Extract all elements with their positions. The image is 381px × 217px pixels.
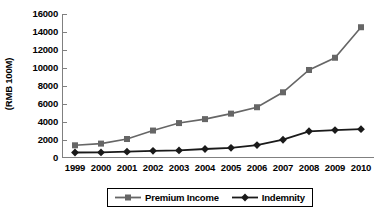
y-axis-tick-labels: 1600014000120001000080006000400020000 (14, 0, 58, 217)
data-point-marker (357, 125, 365, 133)
x-axis-tick-labels: 1999200020012002200320042005200620072008… (62, 162, 374, 176)
data-point-marker (149, 147, 157, 155)
line-chart: (RMB 100M) 16000140001200010000800060004… (0, 0, 381, 217)
data-point-marker (124, 136, 130, 142)
y-axis-tick-label: 14000 (14, 27, 58, 37)
y-axis-tick-label: 4000 (14, 117, 58, 127)
data-point-marker (123, 148, 131, 156)
legend-label: Indemnity (262, 192, 305, 203)
axis-lines (62, 14, 374, 158)
data-series-layer (71, 24, 365, 156)
y-axis-tick-label: 8000 (14, 81, 58, 91)
data-point-marker (175, 147, 183, 155)
data-point-marker (97, 149, 105, 157)
square-marker-icon (115, 192, 141, 203)
data-point-marker (254, 104, 260, 110)
series-line (75, 27, 361, 145)
y-axis-tick-label: 10000 (14, 63, 58, 73)
chart-legend: Premium IncomeIndemnity (107, 188, 313, 207)
data-point-marker (305, 127, 313, 135)
data-point-marker (71, 149, 79, 157)
data-point-marker (201, 145, 209, 153)
y-axis-tick-label: 6000 (14, 99, 58, 109)
data-point-marker (332, 55, 338, 61)
data-point-marker (176, 120, 182, 126)
data-point-marker (228, 111, 234, 117)
data-point-marker (227, 144, 235, 152)
legend-item: Indemnity (232, 192, 305, 203)
data-point-marker (279, 136, 287, 144)
data-point-marker (358, 24, 364, 30)
data-point-marker (306, 67, 312, 73)
legend-item: Premium Income (115, 192, 219, 203)
plot-svg (62, 14, 374, 158)
data-point-marker (280, 89, 286, 95)
data-point-marker (331, 126, 339, 134)
data-point-marker (202, 116, 208, 122)
y-axis-tick-label: 16000 (14, 9, 58, 19)
diamond-marker-icon (232, 192, 258, 203)
y-axis-tick-label: 12000 (14, 45, 58, 55)
y-axis-tick-label: 2000 (14, 135, 58, 145)
x-axis-tick-label: 2010 (341, 162, 381, 174)
y-axis-tick-label: 0 (14, 153, 58, 163)
legend-label: Premium Income (145, 192, 219, 203)
y-axis-ticks (63, 15, 67, 159)
plot-area (62, 14, 374, 158)
series-premium-income (72, 24, 364, 148)
data-point-marker (98, 141, 104, 147)
data-point-marker (150, 128, 156, 134)
data-point-marker (72, 142, 78, 148)
data-point-marker (253, 141, 261, 149)
